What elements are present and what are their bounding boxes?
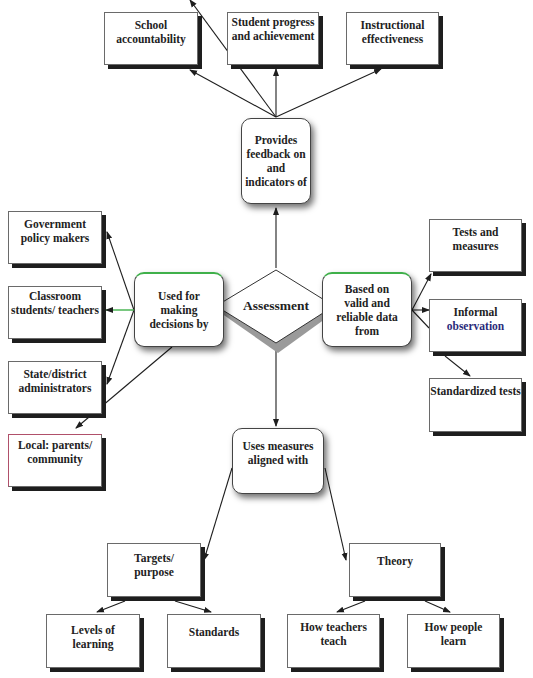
assessment-diamond: Assessment [236, 298, 316, 314]
hub-measures: Uses measures aligned with [232, 428, 324, 494]
levels-label: Levels of learning [63, 623, 123, 651]
node-how-people-learn: How people learn [407, 614, 500, 668]
observation-label: observation [430, 319, 521, 333]
informal-label: Informal [430, 305, 521, 319]
hub-measures-label: Uses measures aligned with [238, 439, 318, 467]
hub-data-label: Based on valid and reliable data from [334, 282, 400, 338]
hub-feedback-label: Provides feedback on and indicators of [242, 133, 310, 189]
node-targets-purpose: Targets/ purpose [107, 543, 201, 597]
node-student-progress: Student progress and achievement [227, 12, 319, 65]
node-local-parents-community: Local: parents/ community [8, 434, 102, 487]
node-government-policy-makers: Government policy makers [8, 211, 102, 264]
node-theory: Theory [349, 543, 441, 597]
hub-decisions: Used for making decisions by [134, 272, 224, 347]
hub-feedback: Provides feedback on and indicators of [241, 118, 311, 204]
hub-data: Based on valid and reliable data from [322, 272, 412, 347]
targets-label: Targets/ purpose [129, 551, 179, 579]
node-school-accountability: School accountability [104, 12, 198, 65]
node-levels-of-learning: Levels of learning [46, 614, 140, 668]
assessment-concept-map: Assessment School accountability Student… [0, 0, 533, 678]
node-standardized-tests: Standardized tests [429, 378, 522, 432]
hub-decisions-label: Used for making decisions by [149, 289, 209, 331]
node-tests-and-measures: Tests and measures [429, 219, 522, 272]
node-how-teachers-teach: How teachers teach [287, 614, 380, 668]
node-informal-observation: Informal observation [429, 299, 522, 352]
node-classroom-students-teachers: Classroom students/ teachers [8, 286, 102, 339]
node-instructional-effectiveness: Instructional effectiveness [346, 12, 439, 65]
how-people-label: How people learn [421, 620, 487, 648]
node-state-district-administrators: State/district administrators [8, 361, 102, 414]
how-teachers-label: How teachers teach [294, 620, 374, 648]
node-standards: Standards [167, 614, 261, 668]
